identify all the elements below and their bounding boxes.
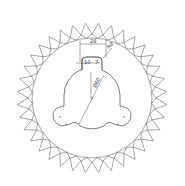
center-marks: [59, 97, 124, 124]
dim-diagonal: Ø60: [91, 77, 101, 89]
drawing-canvas: 28 R8 10 7 Ø60: [0, 0, 185, 186]
dim-left-offset: 10: [84, 59, 90, 65]
sprocket-drawing: 28 R8 10 7 Ø60: [0, 0, 185, 186]
dim-right-offset: 7: [95, 59, 98, 65]
hub-outline: [53, 57, 131, 129]
dim-top-width: 28: [90, 38, 96, 44]
